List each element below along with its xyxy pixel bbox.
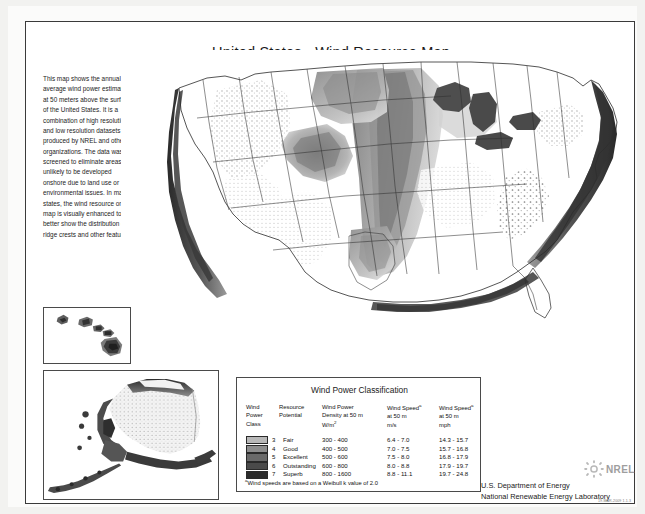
nrel-logo-svg: NREL — [583, 459, 645, 479]
footer-line-doe: U.S. Department of Energy — [481, 480, 610, 491]
legend-column-headers: Wind Power Class Resource Potential Wind… — [246, 403, 478, 433]
legend-cell-speed-mph: 14.3 - 15.7 — [439, 436, 489, 443]
map-svg — [121, 50, 633, 380]
legend-color-swatch — [246, 453, 268, 461]
footer-line-nrel: National Renewable Energy Laboratory — [481, 491, 610, 502]
density-superscript: 2 — [334, 420, 336, 425]
date-stamp: 19-MAR-2009 1.1.3 — [598, 499, 631, 503]
alaska-inset-map — [43, 370, 219, 500]
sunburst-icon — [584, 460, 604, 478]
legend-header-speed-ms: Wind Speeda at 50 m m/s — [387, 403, 439, 429]
legend-color-swatch — [246, 462, 268, 470]
hawaii-svg — [44, 308, 130, 363]
legend-cell-class: 3 — [272, 436, 282, 443]
legend-cell-speed-ms: 8.0 - 8.8 — [387, 462, 437, 469]
legend-cell-density: 600 - 800 — [322, 462, 382, 469]
legend-color-swatch — [246, 436, 268, 444]
legend-row: 5Excellent500 - 6007.5 - 8.016.8 - 17.9 — [246, 453, 478, 462]
legend-cell-density: 800 - 1600 — [322, 470, 382, 477]
legend-header-density: Wind Power Density at 50 m W/m2 — [322, 403, 384, 429]
legend-cell-potential: Fair — [283, 436, 325, 443]
legend-color-swatch — [246, 445, 268, 453]
legend-cell-density: 300 - 400 — [322, 436, 382, 443]
poster-sheet: United States - Wind Resource Map This m… — [8, 6, 637, 507]
hawaii-inset-map — [43, 307, 131, 364]
nrel-wordmark: NREL — [606, 464, 635, 475]
legend-cell-speed-ms: 6.4 - 7.0 — [387, 436, 437, 443]
poster-frame: United States - Wind Resource Map This m… — [25, 21, 635, 504]
legend-cell-class: 5 — [272, 453, 282, 460]
legend-header-speed-mph: Wind Speeda at 50 m mph — [439, 403, 489, 429]
legend-cell-speed-mph: 19.7 - 24.8 — [439, 470, 489, 477]
legend-cell-potential: Outstanding — [283, 462, 325, 469]
wind-power-classification-legend: Wind Power Classification Wind Power Cla… — [236, 377, 481, 492]
legend-cell-speed-mph: 15.7 - 16.8 — [439, 445, 489, 452]
legend-cell-class: 6 — [272, 462, 282, 469]
legend-cell-potential: Good — [283, 445, 325, 452]
alaska-svg — [44, 371, 218, 499]
legend-header-potential: Resource Potential — [279, 403, 319, 420]
legend-cell-speed-ms: 8.8 - 11.1 — [387, 470, 437, 477]
legend-row: 3Fair300 - 4006.4 - 7.014.3 - 15.7 — [246, 436, 478, 445]
legend-row: 4Good400 - 5007.0 - 7.515.7 - 16.8 — [246, 445, 478, 454]
legend-cell-speed-ms: 7.0 - 7.5 — [387, 445, 437, 452]
legend-row: 6Outstanding600 - 8008.0 - 8.817.9 - 19.… — [246, 462, 478, 471]
legend-footnote: aWind speeds are based on a Weibull k va… — [245, 478, 378, 486]
legend-cell-density: 400 - 500 — [322, 445, 382, 452]
legend-title: Wind Power Classification — [237, 385, 482, 395]
legend-rows: 3Fair300 - 4006.4 - 7.014.3 - 15.74Good4… — [246, 436, 478, 479]
nrel-logo: NREL — [583, 459, 645, 479]
legend-cell-class: 4 — [272, 445, 282, 452]
legend-cell-speed-ms: 7.5 - 8.0 — [387, 453, 437, 460]
legend-cell-class: 7 — [272, 470, 282, 477]
legend-cell-speed-mph: 16.8 - 17.9 — [439, 453, 489, 460]
legend-cell-potential: Superb — [283, 470, 325, 477]
us-wind-resource-map — [121, 50, 633, 380]
speed-mph-superscript: a — [471, 403, 473, 408]
agency-attribution: U.S. Department of Energy National Renew… — [481, 480, 610, 502]
legend-cell-density: 500 - 600 — [322, 453, 382, 460]
legend-cell-speed-mph: 17.9 - 19.7 — [439, 462, 489, 469]
legend-header-class: Wind Power Class — [246, 403, 276, 428]
legend-cell-potential: Excellent — [283, 453, 325, 460]
speed-ms-superscript: a — [419, 403, 421, 408]
poster-page: United States - Wind Resource Map This m… — [0, 0, 645, 514]
